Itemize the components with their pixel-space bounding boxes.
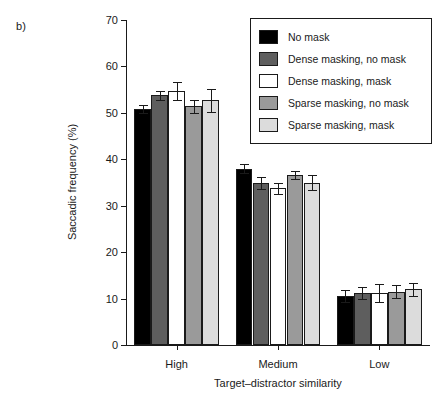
bar xyxy=(253,183,270,345)
error-bar-cap-upper xyxy=(274,183,283,184)
error-bar-cap-lower xyxy=(308,190,317,191)
error-bar-cap-lower xyxy=(392,298,401,299)
legend-item: No mask xyxy=(259,26,423,48)
error-bar-cap-upper xyxy=(341,290,350,291)
error-bar-line xyxy=(379,284,380,303)
x-axis-title: Target–distractor similarity xyxy=(214,377,342,389)
error-bar-cap-lower xyxy=(358,299,367,300)
y-tick-label: 60 xyxy=(106,61,118,72)
error-bar-line xyxy=(413,283,414,296)
y-tick-mark xyxy=(121,113,126,114)
legend-swatch-icon xyxy=(259,118,278,132)
y-tick-mark xyxy=(121,345,126,346)
error-bar-cap-upper xyxy=(409,283,418,284)
y-tick-label: 50 xyxy=(106,107,118,118)
error-bar-cap-upper xyxy=(392,285,401,286)
legend-item: Dense masking, mask xyxy=(259,70,423,92)
bar xyxy=(236,169,253,345)
y-tick-label: 0 xyxy=(112,340,118,351)
error-bar-line xyxy=(177,82,178,100)
error-bar-cap-upper xyxy=(173,82,182,83)
x-group-label-low: Low xyxy=(369,358,389,370)
error-bar-cap-lower xyxy=(156,100,165,101)
error-bar-line xyxy=(362,287,363,299)
legend-swatch-icon xyxy=(259,30,278,44)
bar xyxy=(354,293,371,345)
error-bar-cap-upper xyxy=(139,105,148,106)
error-bar-line xyxy=(244,164,245,172)
x-group-label-medium: Medium xyxy=(258,358,297,370)
error-bar-cap-lower xyxy=(341,302,350,303)
y-tick-mark xyxy=(121,206,126,207)
legend-swatch-icon xyxy=(259,74,278,88)
error-bar-cap-upper xyxy=(308,175,317,176)
bar xyxy=(134,109,151,345)
bar xyxy=(151,95,168,345)
error-bar-cap-lower xyxy=(291,179,300,180)
x-tick-mark xyxy=(177,345,178,350)
legend-label: Sparse masking, mask xyxy=(288,120,394,131)
error-bar-cap-lower xyxy=(190,113,199,114)
error-bar-cap-lower xyxy=(409,296,418,297)
error-bar-cap-lower xyxy=(240,173,249,174)
legend-label: Sparse masking, no mask xyxy=(288,98,409,109)
figure-panel-b: b) Saccadic frequency (%) Target–distrac… xyxy=(0,0,443,399)
y-tick-mark xyxy=(121,159,126,160)
bar xyxy=(270,188,287,345)
legend-item: Sparse masking, no mask xyxy=(259,92,423,114)
x-group-label-high: High xyxy=(165,358,188,370)
error-bar-cap-upper xyxy=(156,91,165,92)
error-bar-line xyxy=(160,91,161,100)
bar xyxy=(388,292,405,345)
y-tick-label: 10 xyxy=(106,293,118,304)
error-bar-line xyxy=(211,89,212,112)
error-bar-cap-lower xyxy=(173,100,182,101)
y-tick-mark xyxy=(121,299,126,300)
y-tick-label: 20 xyxy=(106,247,118,258)
x-tick-mark xyxy=(379,345,380,350)
legend-swatch-icon xyxy=(259,52,278,66)
error-bar-cap-lower xyxy=(274,194,283,195)
y-tick-label: 40 xyxy=(106,154,118,165)
error-bar-line xyxy=(312,175,313,190)
legend-item: Dense masking, no mask xyxy=(259,48,423,70)
error-bar-line xyxy=(261,177,262,189)
bar xyxy=(202,100,219,345)
y-tick-label: 30 xyxy=(106,200,118,211)
error-bar-cap-lower xyxy=(207,112,216,113)
bar xyxy=(337,296,354,345)
error-bar-cap-lower xyxy=(257,189,266,190)
error-bar-line xyxy=(295,171,296,179)
legend-swatch-icon xyxy=(259,96,278,110)
error-bar-cap-upper xyxy=(190,100,199,101)
bar xyxy=(185,106,202,345)
error-bar-line xyxy=(396,285,397,298)
error-bar-cap-upper xyxy=(240,164,249,165)
error-bar-cap-upper xyxy=(257,177,266,178)
error-bar-cap-upper xyxy=(207,89,216,90)
legend-item: Sparse masking, mask xyxy=(259,114,423,136)
legend-label: Dense masking, no mask xyxy=(288,54,406,65)
bar xyxy=(287,175,304,345)
error-bar-line xyxy=(278,183,279,194)
y-tick-mark xyxy=(121,66,126,67)
error-bar-line xyxy=(194,100,195,113)
x-tick-mark xyxy=(278,345,279,350)
legend: No maskDense masking, no maskDense maski… xyxy=(250,18,432,144)
y-tick-label: 70 xyxy=(106,15,118,26)
y-tick-mark xyxy=(121,20,126,21)
panel-label: b) xyxy=(16,20,26,32)
legend-label: Dense masking, mask xyxy=(288,76,391,87)
error-bar-cap-lower xyxy=(139,113,148,114)
error-bar-line xyxy=(143,105,144,113)
bar xyxy=(405,289,422,345)
bar xyxy=(304,183,321,346)
error-bar-cap-upper xyxy=(358,287,367,288)
error-bar-cap-upper xyxy=(375,284,384,285)
legend-label: No mask xyxy=(288,32,329,43)
error-bar-cap-lower xyxy=(375,302,384,303)
error-bar-cap-upper xyxy=(291,171,300,172)
y-axis-title: Saccadic frequency (%) xyxy=(66,124,78,240)
bar xyxy=(168,91,185,345)
error-bar-line xyxy=(345,290,346,302)
